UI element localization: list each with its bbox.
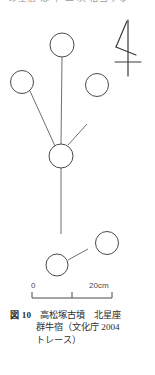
figure-caption: 図 10 高松塚古墳 北星座 群牛宿（文化庁 2004 トレース）	[0, 309, 155, 346]
caption-line-1-text: 高松塚古墳 北星座	[40, 310, 121, 320]
star-lower-left	[46, 254, 68, 276]
star-hub	[49, 144, 73, 168]
kanji-upper-left-stroke	[116, 21, 127, 47]
caption-line-2: 群牛宿（文化庁 2004	[0, 321, 155, 333]
star-top	[50, 33, 74, 57]
star-chart-canvas	[0, 12, 155, 280]
caption-line-3: トレース）	[0, 334, 155, 346]
star-lower-right	[96, 232, 119, 255]
link-top-hub	[61, 57, 62, 144]
star-left	[11, 71, 34, 94]
caption-line-1: 図 10 高松塚古墳 北星座	[0, 309, 155, 321]
scale-bar-graphic	[0, 281, 155, 307]
cropped-header-text-line: の星宿 は 十 二 次 相当する	[8, 0, 128, 4]
kanji-ox-label	[115, 20, 141, 76]
cropped-header-text: の星宿 は 十 二 次 相当する	[0, 0, 155, 12]
scale-bar: 0 20cm	[0, 281, 155, 307]
link-left-hub	[30, 91, 55, 146]
kanji-mid-diagonal	[116, 47, 136, 55]
scale-label-min: 0	[31, 281, 35, 290]
star-right	[86, 74, 109, 97]
constellation-stars	[11, 33, 119, 276]
link-lower-pair	[68, 249, 88, 260]
star-chart-figure	[0, 12, 155, 280]
link-hub-branch	[68, 124, 87, 145]
scale-label-max: 20cm	[89, 281, 109, 290]
caption-figure-number: 図 10	[10, 310, 40, 320]
